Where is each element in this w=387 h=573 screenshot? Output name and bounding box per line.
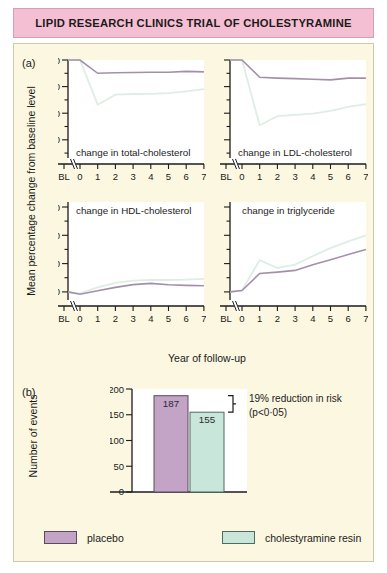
xtick-bl: BL	[58, 313, 70, 324]
bar-ytick-50: 50	[113, 461, 124, 472]
figure-title: LIPID RESEARCH CLINICS TRIAL OF CHOLESTY…	[35, 17, 351, 29]
xtick-3: 3	[130, 171, 135, 182]
legend-item-resin: cholestyramine resin	[222, 531, 361, 544]
xtick-7: 7	[201, 171, 206, 182]
legend-swatch-resin	[222, 531, 255, 544]
bar-value-placebo: 187	[163, 398, 179, 409]
xtick-4: 4	[148, 313, 153, 324]
ytick-0: 0	[58, 286, 60, 297]
chart-triglyceride: BL 0 1 2 3 4 5 6 7 change in triglycerid…	[220, 200, 368, 328]
legend-label-resin: cholestyramine resin	[265, 532, 361, 544]
chart-hdl-cholesterol: 30 20 10 0 BL	[58, 200, 206, 328]
ytick-10: 10	[58, 258, 60, 269]
xtick-bl: BL	[58, 171, 70, 182]
ytick-30: 30	[58, 202, 60, 213]
xtick-4: 4	[148, 171, 153, 182]
xtick-6: 6	[184, 313, 189, 324]
risk-reduction-annotation: 19% reduction in risk (p<0·05)	[249, 392, 342, 420]
bar-ytick-200: 200	[110, 385, 124, 395]
xtick-7: 7	[363, 313, 368, 324]
xtick-2: 2	[113, 313, 118, 324]
xtick-2: 2	[113, 171, 118, 182]
xtick-6: 6	[346, 313, 351, 324]
xtick-3: 3	[292, 171, 297, 182]
bar-ytick-150: 150	[110, 409, 124, 420]
xtick-2: 2	[275, 313, 280, 324]
legend-item-placebo: placebo	[44, 531, 124, 544]
bar-ytick-100: 100	[110, 435, 124, 446]
panel-title-total-cholesterol: change in total-cholesterol	[76, 147, 190, 158]
xtick-5: 5	[166, 171, 171, 182]
xtick-6: 6	[184, 171, 189, 182]
xtick-5: 5	[328, 313, 333, 324]
chart-coronary-events: 200 150 100 50 0 187 155	[110, 385, 260, 517]
xtick-0: 0	[77, 313, 82, 324]
annotation-line-2: (p<0·05)	[249, 406, 342, 420]
xtick-bl: BL	[220, 313, 232, 324]
xtick-2: 2	[275, 171, 280, 182]
xtick-0: 0	[239, 171, 244, 182]
xtick-6: 6	[346, 171, 351, 182]
ytick-m20: −20	[58, 108, 60, 119]
xtick-5: 5	[328, 171, 333, 182]
bar-ytick-0: 0	[119, 486, 124, 497]
xtick-7: 7	[363, 171, 368, 182]
xtick-1: 1	[95, 171, 100, 182]
xtick-5: 5	[166, 313, 171, 324]
xtick-bl: BL	[220, 171, 232, 182]
xtick-0: 0	[239, 313, 244, 324]
xtick-4: 4	[310, 171, 315, 182]
panel-title-ldl-cholesterol: change in LDL-cholesterol	[238, 147, 352, 158]
bar-value-resin: 155	[199, 414, 216, 425]
y-axis-label: Mean percentage change from baseline lev…	[25, 76, 37, 306]
annotation-line-1: 19% reduction in risk	[249, 392, 342, 406]
x-axis-label: Year of follow-up	[168, 352, 246, 364]
legend-swatch-placebo	[44, 531, 77, 544]
xtick-7: 7	[201, 313, 206, 324]
xtick-3: 3	[292, 313, 297, 324]
chart-ldl-cholesterol: BL 0 1 2 3 4 5 6 7 change in LDL-cholest…	[220, 58, 368, 186]
ytick-m10: −10	[58, 81, 60, 92]
section-label-a: (a)	[22, 57, 35, 69]
panel-title-hdl-cholesterol: change in HDL-cholesterol	[76, 205, 191, 216]
panel-title-triglyceride: change in triglyceride	[242, 205, 335, 216]
xtick-1: 1	[95, 313, 100, 324]
xtick-3: 3	[130, 313, 135, 324]
xtick-1: 1	[257, 171, 262, 182]
bar-y-axis-label: Number of events	[27, 376, 39, 496]
xtick-1: 1	[257, 313, 262, 324]
ytick-m30: −30	[58, 134, 60, 145]
ytick-0: 0	[58, 58, 60, 66]
legend-label-placebo: placebo	[87, 532, 124, 544]
bar-placebo	[154, 396, 188, 492]
xtick-4: 4	[310, 313, 315, 324]
chart-total-cholesterol: 0 −10 −20 −30	[58, 58, 206, 186]
figure-root: LIPID RESEARCH CLINICS TRIAL OF CHOLESTY…	[0, 0, 387, 573]
xtick-0: 0	[77, 171, 82, 182]
title-banner: LIPID RESEARCH CLINICS TRIAL OF CHOLESTY…	[13, 8, 374, 38]
ytick-20: 20	[58, 230, 60, 241]
